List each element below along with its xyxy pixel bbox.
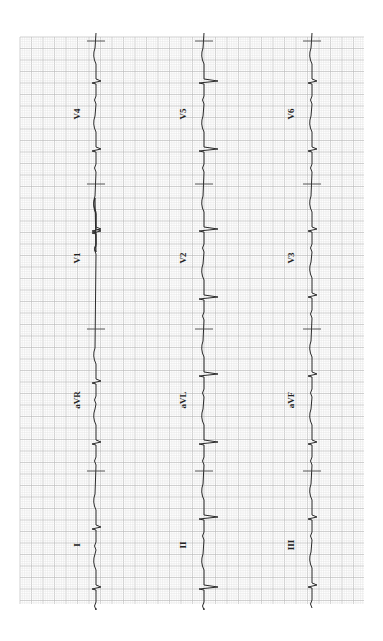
lead-label-v6: V6 — [286, 108, 296, 119]
lead-label-v1: V1 — [72, 252, 82, 263]
lead-label-iii: III — [286, 539, 296, 550]
lead-label-v4: V4 — [72, 108, 82, 119]
lead-label-ii: II — [178, 541, 188, 549]
ecg-chart: IaVRV1V4IIaVLV2V5IIIaVFV3V6 — [0, 0, 383, 641]
ecg-grid-paper — [20, 37, 364, 604]
lead-label-v5: V5 — [178, 108, 188, 119]
lead-label-v3: V3 — [286, 252, 296, 263]
lead-label-avr: aVR — [72, 391, 82, 409]
lead-label-avf: aVF — [286, 391, 296, 408]
lead-label-v2: V2 — [178, 252, 188, 263]
lead-label-avl: aVL — [178, 391, 188, 408]
lead-label-i: I — [72, 543, 82, 547]
